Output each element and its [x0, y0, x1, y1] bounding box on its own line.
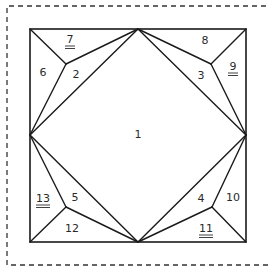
- square-partition-diagram: 1 2 3 4 5 6 7 8 9 10 11 12 13: [0, 0, 269, 271]
- region-label-9: 9: [230, 60, 237, 73]
- region-label-11: 11: [199, 222, 213, 235]
- region-label-1: 1: [135, 128, 142, 141]
- region-label-12: 12: [65, 222, 79, 235]
- region-label-2: 2: [73, 68, 80, 81]
- region-label-3: 3: [198, 69, 205, 82]
- region-label-10: 10: [226, 191, 240, 204]
- double-underline-9: [228, 73, 238, 76]
- region-label-4: 4: [198, 192, 205, 205]
- double-underline-11: [199, 235, 213, 238]
- region-label-8: 8: [202, 34, 209, 47]
- double-underline-7: [65, 46, 75, 49]
- region-label-7: 7: [67, 33, 74, 46]
- double-underline-13: [36, 205, 50, 208]
- region-label-13: 13: [36, 192, 50, 205]
- region-label-6: 6: [40, 66, 47, 79]
- region-label-5: 5: [72, 191, 79, 204]
